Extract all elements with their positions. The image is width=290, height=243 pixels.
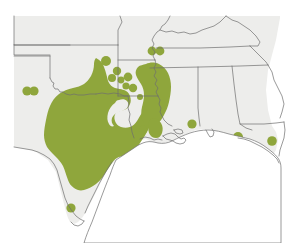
occurrence-dot: [101, 56, 111, 66]
occurrence-dot: [124, 73, 133, 82]
occurrence-dot: [118, 77, 125, 84]
occurrence-dot: [108, 74, 116, 82]
distribution-map-figure: [0, 0, 290, 243]
occurrence-dot: [29, 86, 38, 95]
border-georgia-southcarolina: [268, 65, 284, 118]
border-florida-east: [279, 122, 285, 156]
occurrence-dot: [129, 84, 137, 92]
occurrence-dot: [113, 67, 121, 75]
map-canvas: [0, 0, 290, 243]
occurrence-dot: [187, 119, 196, 128]
occurrence-dot: [137, 94, 143, 100]
occurrence-dot: [122, 82, 129, 89]
occurrence-dot: [139, 126, 148, 135]
occurrence-dot: [267, 136, 277, 146]
